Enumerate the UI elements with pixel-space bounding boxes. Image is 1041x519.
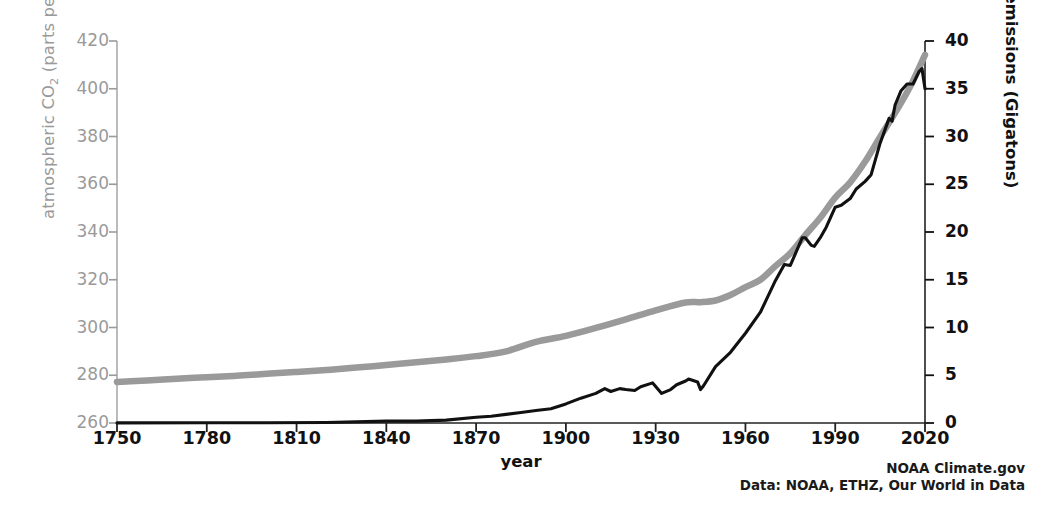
x-tick-label: 1870 [452,428,501,448]
credit-source: NOAA Climate.gov [886,460,1025,476]
x-tick-label: 1810 [272,428,321,448]
right-tick-value: 15 [945,269,969,289]
chart-plot-area [0,0,1041,519]
chart-figure: 260280300320340360380400420 051015202530… [0,0,1041,519]
left-tick-value: 300 [77,317,109,337]
right-axis-label: CO2 emissions (Gigatons) [999,0,1020,281]
x-tick-label: 1780 [182,428,231,448]
left-axis-label-tail: (parts per million) [39,0,58,78]
x-tick-label: 1750 [93,428,142,448]
x-tick-label: 1840 [362,428,411,448]
credit-data: Data: NOAA, ETHZ, Our World in Data [740,477,1025,493]
x-tick-label: 2020 [901,428,950,448]
right-tick-value: 10 [945,317,969,337]
right-axis-label-tail: emissions (Gigatons) [1002,0,1021,188]
left-axis-label-main: atmospheric CO [39,85,58,219]
left-axis-ticks [109,41,117,423]
left-axis-label: atmospheric CO2 (parts per million) [39,0,60,281]
left-tick-value: 360 [77,173,109,193]
right-tick-value: 5 [945,364,957,384]
right-tick-value: 30 [945,126,969,146]
right-tick-value: 20 [945,221,969,241]
left-tick-value: 280 [77,364,109,384]
x-tick-label: 1990 [811,428,860,448]
x-axis-ticks [117,423,925,432]
series-line-atmospheric-co2 [117,55,925,382]
right-tick-value: 40 [945,30,969,50]
x-tick-label: 1930 [631,428,680,448]
series-line-co2-emissions [117,69,925,423]
x-tick-label: 1900 [542,428,591,448]
left-tick-value: 380 [77,126,109,146]
left-tick-value: 420 [77,30,109,50]
right-tick-value: 25 [945,173,969,193]
x-axis-label: year [117,452,925,471]
x-tick-label: 1960 [721,428,770,448]
left-tick-value: 340 [77,221,109,241]
left-axis-label-subscript: 2 [48,78,61,85]
right-tick-value: 35 [945,78,969,98]
right-axis-ticks [925,41,934,423]
left-tick-value: 400 [77,78,109,98]
left-tick-value: 320 [77,269,109,289]
